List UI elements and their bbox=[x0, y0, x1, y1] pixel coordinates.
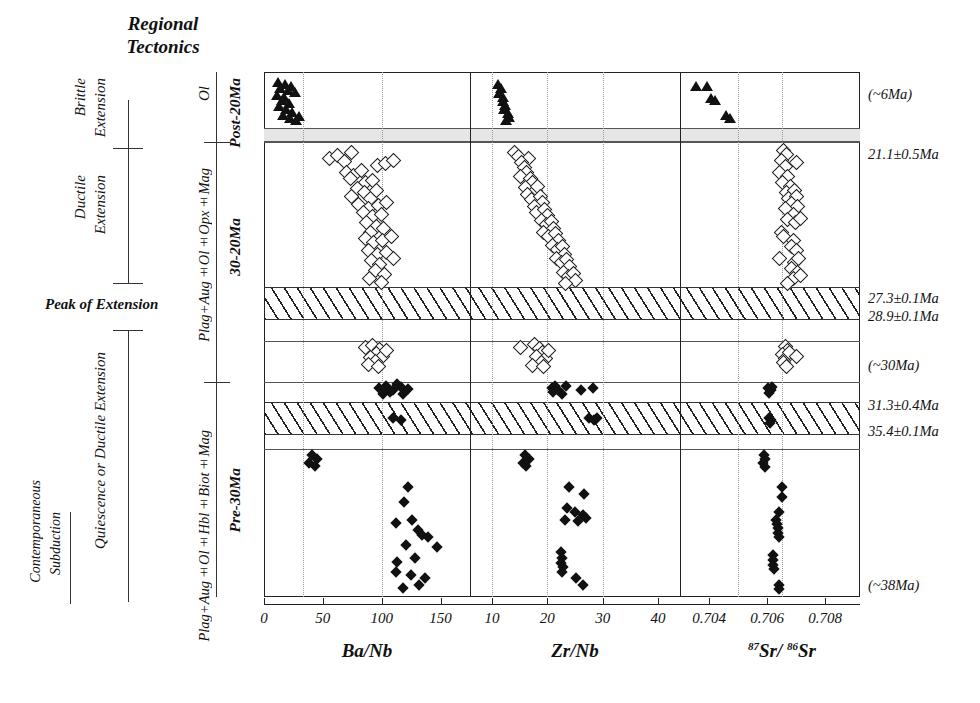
tectonics-bracket-tick-2 bbox=[113, 283, 143, 284]
tectonics-label-ductile-extension-2: Extension bbox=[92, 175, 109, 234]
axis-title-panel-ba-nb: Ba/Nb bbox=[342, 640, 393, 662]
data-point-filled-diamond bbox=[390, 517, 401, 528]
mineralogy-tick-2 bbox=[204, 382, 230, 383]
data-point-filled-diamond bbox=[402, 481, 413, 492]
data-point-open-diamond bbox=[512, 340, 528, 356]
age-28-9ma: 28.9±0.1Ma bbox=[868, 308, 939, 325]
tectonics-label-brittle-extension: Brittle bbox=[72, 78, 89, 116]
age-group-30-20ma: 30-20Ma bbox=[226, 218, 244, 276]
tectonics-bracket-ductile bbox=[128, 158, 129, 284]
tick-panel-zr-nb-2 bbox=[603, 598, 604, 605]
age-group-post-20ma: Post-20Ma bbox=[226, 78, 244, 148]
panel-divider-1 bbox=[470, 72, 471, 597]
ductile-line2: Extension bbox=[92, 175, 108, 234]
brittle-line1: Brittle bbox=[72, 78, 88, 116]
tectonics-bracket-quiescence bbox=[128, 330, 129, 602]
tectonics-label-contemporaneous-subduction-2: Subduction bbox=[48, 512, 64, 575]
tick-label-panel-ba-nb-2: 100 bbox=[370, 610, 393, 627]
tectonics-label-peak-of-extension: Peak of Extension bbox=[45, 296, 158, 313]
data-point-filled-diamond bbox=[776, 491, 787, 502]
data-point-filled-diamond bbox=[575, 384, 586, 395]
figure-title-line2: Tectonics bbox=[68, 35, 258, 58]
ductile-line1: Ductile bbox=[72, 175, 88, 219]
data-point-filled-diamond bbox=[587, 382, 598, 393]
mineralogy-divider bbox=[216, 72, 217, 597]
tick-panel-sr-0 bbox=[709, 598, 710, 605]
tectonics-label-brittle-extension-2: Extension bbox=[92, 78, 109, 137]
tick-panel-ba-nb-1 bbox=[323, 598, 324, 605]
tectonics-label-contemporaneous-subduction: Contemporaneous bbox=[28, 480, 44, 583]
tick-label-panel-sr-2: 0.708 bbox=[808, 610, 842, 627]
tick-panel-zr-nb-3 bbox=[658, 598, 659, 605]
tectonics-label-ductile-extension: Ductile bbox=[72, 175, 89, 219]
tick-label-panel-zr-nb-0: 10 bbox=[485, 610, 500, 627]
x-axis-line bbox=[264, 604, 860, 605]
axis-title-panel-sr: 87Sr/ 86Sr bbox=[748, 640, 816, 662]
data-point-filled-diamond bbox=[391, 556, 402, 567]
data-point-filled-diamond bbox=[431, 541, 442, 552]
gridline-panel-zr-nb-1 bbox=[547, 72, 548, 597]
hatch-band-upper bbox=[264, 287, 860, 320]
data-point-filled-triangle bbox=[500, 115, 512, 125]
figure-title-line1: Regional bbox=[68, 12, 258, 35]
figure-title: Regional Tectonics bbox=[68, 12, 258, 58]
tick-panel-zr-nb-0 bbox=[492, 598, 493, 605]
age-27-3ma: 27.3±0.1Ma bbox=[868, 290, 939, 307]
data-point-filled-diamond bbox=[578, 488, 589, 499]
gridline-panel-sr-0 bbox=[738, 72, 739, 597]
tick-panel-sr-2 bbox=[825, 598, 826, 605]
tick-label-panel-zr-nb-2: 30 bbox=[595, 610, 610, 627]
data-point-filled-triangle bbox=[290, 115, 302, 125]
data-point-filled-triangle bbox=[724, 113, 736, 123]
data-point-filled-diamond bbox=[559, 514, 570, 525]
tick-label-panel-ba-nb-0: 0 bbox=[260, 610, 268, 627]
tick-label-panel-zr-nb-3: 40 bbox=[650, 610, 665, 627]
data-point-filled-diamond bbox=[409, 552, 420, 563]
data-point-filled-diamond bbox=[407, 514, 418, 525]
data-point-filled-diamond bbox=[405, 569, 416, 580]
tick-panel-ba-nb-3 bbox=[441, 598, 442, 605]
tectonics-label-quiescence: Quiescence or Ductile Extension bbox=[92, 352, 109, 549]
tick-label-panel-zr-nb-1: 20 bbox=[540, 610, 555, 627]
tick-panel-ba-nb-2 bbox=[382, 598, 383, 605]
data-point-filled-triangle bbox=[709, 95, 721, 105]
gridline-panel-ba-nb-0 bbox=[303, 72, 304, 597]
tick-panel-ba-nb-0 bbox=[264, 598, 265, 605]
data-point-filled-diamond bbox=[398, 496, 409, 507]
age-6ma: (~6Ma) bbox=[868, 86, 912, 103]
data-point-filled-diamond bbox=[564, 481, 575, 492]
subduction-underline bbox=[70, 512, 71, 604]
data-point-filled-diamond bbox=[397, 582, 408, 593]
mineralogy-label-plag-hbl: Plag+Aug±Ol±Hbl±Biot±Mag bbox=[196, 430, 213, 642]
tick-panel-zr-nb-1 bbox=[547, 598, 548, 605]
tick-label-panel-ba-nb-1: 50 bbox=[315, 610, 330, 627]
tick-label-panel-sr-0: 0.704 bbox=[692, 610, 726, 627]
grey-band bbox=[264, 128, 860, 142]
mineralogy-label-plag-opx: Plag+Aug±Ol±Opx±Mag bbox=[196, 168, 213, 342]
tick-label-panel-ba-nb-3: 150 bbox=[429, 610, 452, 627]
age-30ma: (~30Ma) bbox=[868, 357, 919, 374]
plot-overlay bbox=[264, 72, 860, 597]
data-point-filled-diamond bbox=[401, 539, 412, 550]
data-point-open-diamond bbox=[771, 251, 787, 267]
row-divider-1 bbox=[264, 341, 860, 342]
data-point-filled-diamond bbox=[577, 579, 588, 590]
brittle-line2: Extension bbox=[92, 78, 108, 137]
age-38ma: (~38Ma) bbox=[868, 577, 919, 594]
tectonics-bracket-tick-1 bbox=[113, 148, 143, 149]
row-divider-3 bbox=[264, 449, 860, 450]
gridline-panel-zr-nb-2 bbox=[603, 72, 604, 597]
age-35-4ma: 35.4±0.1Ma bbox=[868, 423, 939, 440]
panel-divider-2 bbox=[680, 72, 681, 597]
data-point-filled-diamond bbox=[390, 566, 401, 577]
age-31-3ma: 31.3±0.4Ma bbox=[868, 397, 939, 414]
gridline-panel-zr-nb-0 bbox=[492, 72, 493, 597]
mineralogy-label-ol: Ol bbox=[196, 86, 213, 101]
tick-label-panel-sr-1: 0.706 bbox=[750, 610, 784, 627]
data-point-filled-triangle bbox=[701, 81, 713, 91]
tick-panel-sr-1 bbox=[767, 598, 768, 605]
data-point-filled-triangle bbox=[289, 87, 301, 97]
row-divider-0 bbox=[264, 142, 860, 143]
age-annotation-list: (~6Ma)21.1±0.5Ma27.3±0.1Ma28.9±0.1Ma(~30… bbox=[868, 0, 980, 703]
axis-title-panel-zr-nb: Zr/Nb bbox=[551, 640, 599, 662]
